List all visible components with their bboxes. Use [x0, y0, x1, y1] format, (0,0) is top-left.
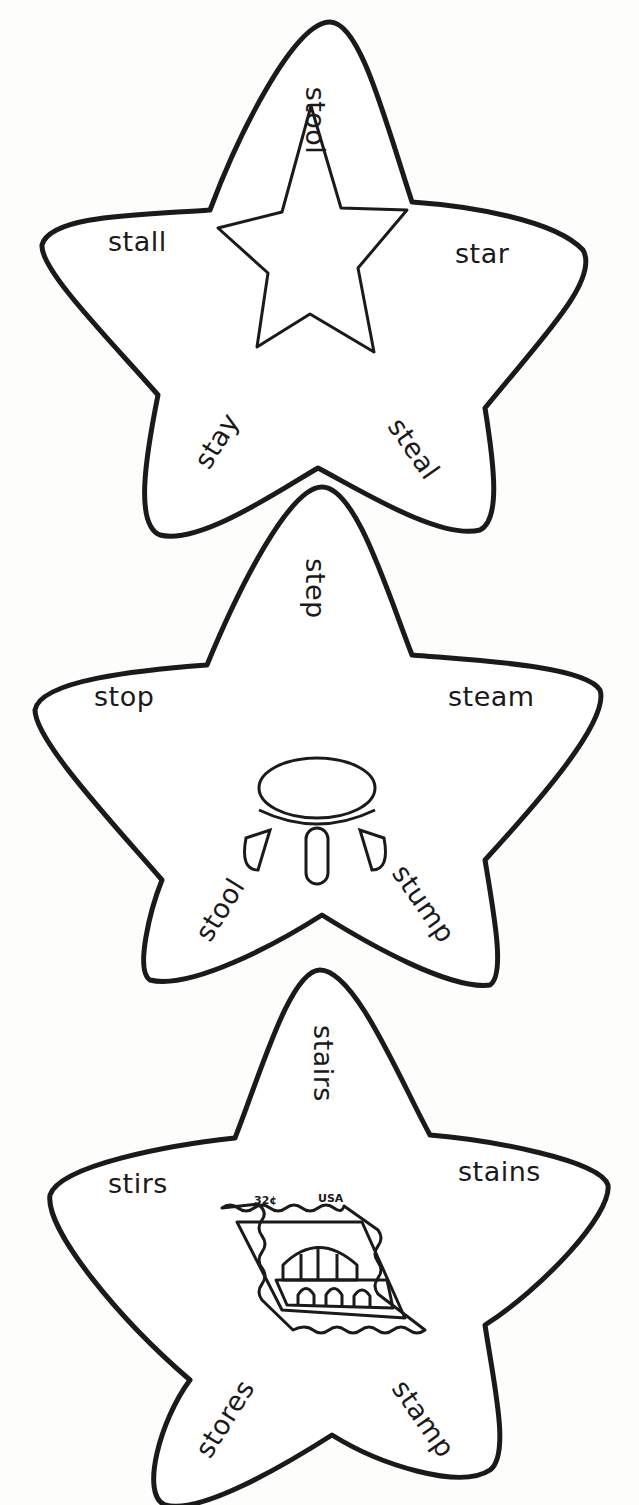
word-right: steam — [448, 683, 535, 710]
word-left: stop — [94, 683, 154, 710]
word-right: stains — [458, 1158, 541, 1185]
word-top: stool — [302, 87, 329, 155]
worksheet-page: 32¢ USA stool stall star stay steal step… — [0, 0, 639, 1505]
stamp-value: 32¢ — [254, 1194, 277, 1207]
word-left: stirs — [108, 1170, 168, 1197]
word-right: star — [455, 240, 509, 267]
word-top: step — [302, 558, 329, 618]
word-left: stall — [108, 228, 167, 255]
word-top: stairs — [310, 1025, 337, 1102]
stamp-country: USA — [318, 1192, 344, 1205]
star-outlines: 32¢ USA — [0, 0, 639, 1505]
